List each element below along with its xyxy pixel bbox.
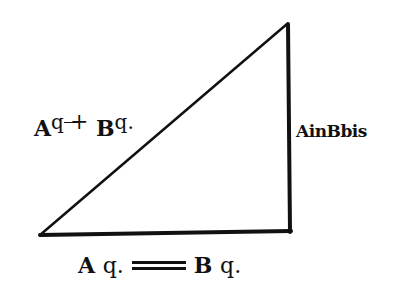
base-term-a-q: q. — [103, 253, 124, 278]
hypotenuse-label: Aq+ Bq. — [34, 117, 134, 140]
vertical-side-line — [288, 24, 290, 232]
hyp-term-b: B — [96, 115, 115, 141]
base-label: A q.B q. — [78, 254, 241, 277]
hyp-plus-operator: + — [70, 111, 88, 133]
hyp-term-b-exponent: q. — [115, 110, 134, 134]
base-term-b: B — [194, 252, 213, 278]
base-line — [40, 231, 291, 235]
equals-sign — [132, 261, 186, 270]
base-term-a: A — [78, 252, 95, 278]
vertical-side-label: AinBbis — [296, 123, 367, 140]
hyp-term-a: A — [34, 115, 51, 141]
base-term-b-q: q. — [220, 253, 241, 278]
hyp-term-a-exponent: q — [51, 110, 64, 134]
